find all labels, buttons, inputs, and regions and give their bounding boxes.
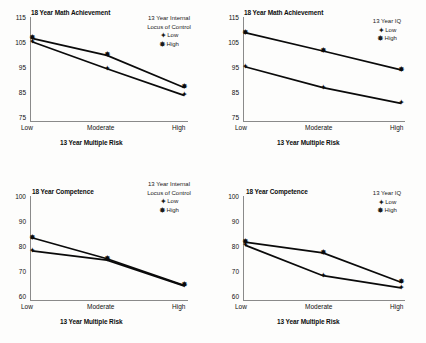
data-point-high-2: ✸ [181,82,188,91]
x-axis-title: 13 Year Multiple Risk [60,139,122,146]
data-point-high-2: ✸ [398,65,405,74]
x-axis-tick-low: Low [21,124,33,131]
chart-panel-math-locus: 18 Year Math Achievement 13 Year Interna… [0,0,213,171]
data-point-low-0: ✦ [242,62,249,71]
chart-panel-competence-iq: 18 Year Competence 13 Year IQ ✦Low ✸High… [213,172,426,343]
data-point-high-1: ✸ [104,50,111,59]
x-axis-tick-moderate: Moderate [87,124,114,131]
data-point-low-1: ✦ [104,64,111,73]
x-axis-tick-high: High [172,303,185,310]
data-point-high-1: ✸ [320,248,327,257]
data-point-low-1: ✦ [320,271,327,280]
data-point-high-1: ✸ [320,46,327,55]
data-point-high-2: ✸ [398,277,405,286]
data-point-high-0: ✸ [29,233,36,242]
x-axis-title: 13 Year Multiple Risk [60,318,122,325]
x-axis-tick-high: High [390,124,403,131]
x-axis-title: 13 Year Multiple Risk [277,318,339,325]
data-point-low-0: ✦ [29,246,36,255]
x-axis-tick-high: High [390,303,403,310]
x-axis-title: 13 Year Multiple Risk [277,139,339,146]
data-point-high-1: ✸ [104,254,111,263]
x-axis-tick-low: Low [235,124,247,131]
chart-panel-math-iq: 18 Year Math Achievement 13 Year IQ ✦Low… [213,0,426,171]
x-axis-tick-low: Low [21,303,33,310]
figure-container: 18 Year Math Achievement 13 Year Interna… [0,0,426,343]
x-axis-tick-moderate: Moderate [87,303,114,310]
data-point-low-1: ✦ [320,83,327,92]
x-axis-tick-moderate: Moderate [305,303,332,310]
data-point-low-2: ✦ [398,98,405,107]
data-point-low-2: ✦ [181,90,188,99]
data-point-high-0: ✸ [242,28,249,37]
x-axis-tick-moderate: Moderate [305,124,332,131]
data-point-high-0: ✸ [242,237,249,246]
x-axis-tick-low: Low [235,303,247,310]
data-point-high-0: ✸ [29,33,36,42]
chart-panel-competence-locus: 18 Year Competence 13 Year Internal Locu… [0,172,213,343]
data-point-high-2: ✸ [181,280,188,289]
x-axis-tick-high: High [172,124,185,131]
